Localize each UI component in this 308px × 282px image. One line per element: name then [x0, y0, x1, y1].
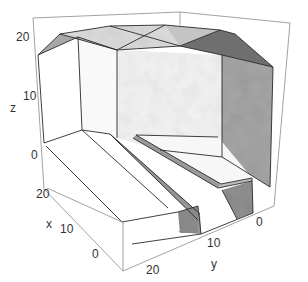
bounding-box-back [33, 12, 290, 25]
inner-left-wall-face [78, 37, 117, 138]
right-channel-end [222, 181, 253, 219]
y-tick-0: 0 [256, 215, 263, 229]
y-axis-label: y [211, 257, 217, 271]
y-tick-10: 10 [207, 236, 221, 250]
z-axis-label: z [10, 101, 16, 115]
x-tick-0: 0 [92, 247, 99, 261]
z-tick-20: 20 [16, 30, 30, 44]
plot-canvas: 20 10 0 z 20 10 0 x 0 10 20 y [0, 0, 308, 282]
left-wall-face [38, 37, 82, 143]
x-axis-label: x [46, 217, 52, 231]
y-tick-20: 20 [146, 263, 160, 277]
x-tick-10: 10 [60, 222, 74, 236]
z-tick-0: 0 [31, 148, 38, 162]
z-tick-10: 10 [23, 89, 37, 103]
3d-plot: 20 10 0 z 20 10 0 x 0 10 20 y [0, 0, 308, 282]
z-axis: 20 10 0 z [10, 30, 38, 162]
surface-faces [38, 25, 273, 244]
x-tick-20: 20 [36, 187, 50, 201]
x-axis: 20 10 0 x [36, 187, 99, 261]
